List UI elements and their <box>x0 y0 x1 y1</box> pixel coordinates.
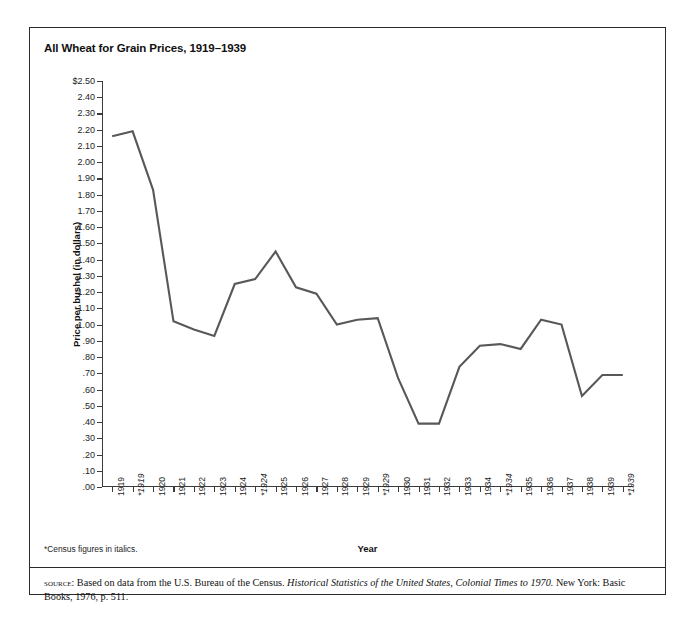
x-axis-tick <box>276 487 277 492</box>
x-axis-tick <box>459 487 460 492</box>
y-axis-tick <box>97 487 102 488</box>
y-axis-tick-label: .10 <box>82 466 95 476</box>
y-axis-tick-label: 1.50 <box>77 238 95 248</box>
x-axis-tick <box>153 487 154 492</box>
chart-title: All Wheat for Grain Prices, 1919–1939 <box>44 42 246 54</box>
source-text-before: Based on data from the U.S. Bureau of th… <box>74 577 287 588</box>
y-axis-tick-label: 1.70 <box>77 206 95 216</box>
x-axis-tick <box>398 487 399 492</box>
y-axis-tick-label: 2.00 <box>77 157 95 167</box>
x-axis-tick <box>500 487 501 492</box>
x-axis-tick <box>357 487 358 492</box>
y-axis-tick-label: .30 <box>82 433 95 443</box>
x-axis-tick <box>562 487 563 492</box>
y-axis-tick-label: 1.80 <box>77 190 95 200</box>
y-axis-tick-label: 2.20 <box>77 125 95 135</box>
series-line-chart <box>102 81 633 487</box>
x-axis-tick <box>173 487 174 492</box>
wheat-price-series <box>112 131 623 423</box>
y-axis-tick-label: .90 <box>82 336 95 346</box>
x-axis-title: Year <box>102 543 633 554</box>
x-axis-tick <box>378 487 379 492</box>
source-publication-title: Historical Statistics of the United Stat… <box>287 577 553 588</box>
x-axis-tick <box>316 487 317 492</box>
y-axis-tick-label: 1.20 <box>77 287 95 297</box>
x-axis-tick <box>521 487 522 492</box>
x-axis-tick <box>112 487 113 492</box>
x-axis-tick <box>296 487 297 492</box>
x-axis-tick <box>541 487 542 492</box>
x-axis-tick <box>602 487 603 492</box>
x-axis-tick <box>133 487 134 492</box>
x-axis-tick <box>623 487 624 492</box>
x-axis-tick <box>419 487 420 492</box>
y-axis-tick-label: .40 <box>82 417 95 427</box>
y-axis-tick-label: .70 <box>82 368 95 378</box>
y-axis-tick-label: .50 <box>82 401 95 411</box>
source-label: source: <box>44 577 74 588</box>
y-axis-tick-label: 1.40 <box>77 255 95 265</box>
x-axis-tick <box>235 487 236 492</box>
x-axis-tick <box>214 487 215 492</box>
y-axis-tick-label: 1.30 <box>77 271 95 281</box>
figure-panel: All Wheat for Grain Prices, 1919–1939 Pr… <box>29 27 666 595</box>
y-axis-tick-label: $2.50 <box>72 76 95 86</box>
x-axis-tick <box>255 487 256 492</box>
y-axis-tick-label: .20 <box>82 450 95 460</box>
y-axis-tick-label: 1.60 <box>77 222 95 232</box>
source-note: source: Based on data from the U.S. Bure… <box>44 576 651 603</box>
y-axis-tick-label: 2.10 <box>77 141 95 151</box>
plot-area: $2.502.402.302.202.102.001.901.801.701.6… <box>102 81 633 487</box>
y-axis-tick-label: 2.30 <box>77 108 95 118</box>
y-axis-tick-label: 1.10 <box>77 303 95 313</box>
y-axis-tick-label: .00 <box>82 482 95 492</box>
x-axis-tick <box>194 487 195 492</box>
x-axis-tick <box>337 487 338 492</box>
footnote: *Census figures in italics. <box>44 544 138 554</box>
x-axis-tick <box>582 487 583 492</box>
y-axis-tick-label: 2.40 <box>77 92 95 102</box>
x-axis-tick <box>480 487 481 492</box>
y-axis-tick-label: 1.90 <box>77 173 95 183</box>
source-divider <box>30 567 665 568</box>
y-axis-tick-label: .80 <box>82 352 95 362</box>
x-axis-tick <box>439 487 440 492</box>
y-axis-tick-label: .60 <box>82 385 95 395</box>
y-axis-tick-label: 1.00 <box>77 320 95 330</box>
